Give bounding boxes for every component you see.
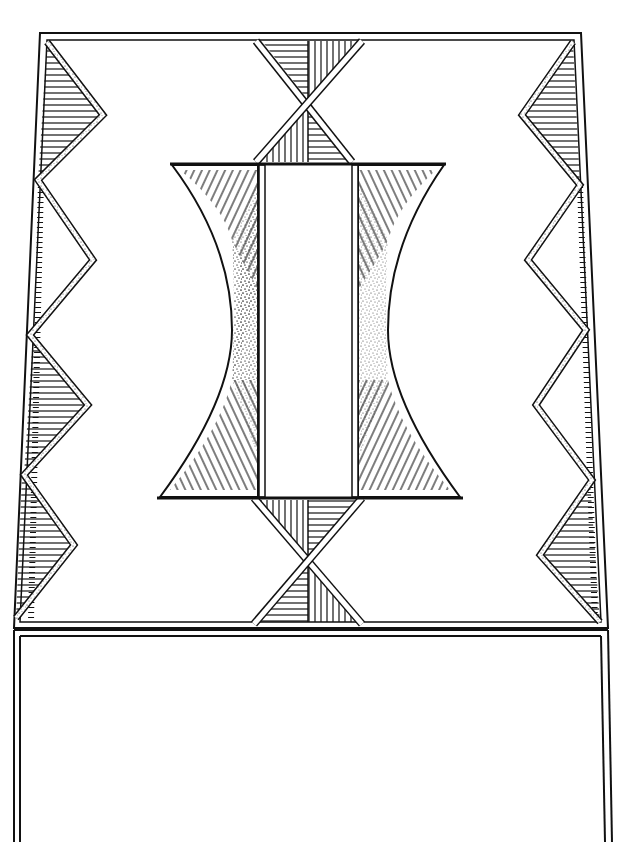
artwork-canvas: (function(){ const NS = "http://www.w3.o… — [0, 0, 621, 856]
left-side-zigzag — [16, 42, 103, 620]
lower-blank-panel — [21, 637, 600, 842]
right-side-zigzag — [522, 42, 600, 622]
top-connector — [256, 41, 362, 162]
bottom-connector — [254, 498, 362, 624]
hourglass-center-panel — [273, 167, 345, 496]
central-hourglass — [157, 164, 463, 498]
